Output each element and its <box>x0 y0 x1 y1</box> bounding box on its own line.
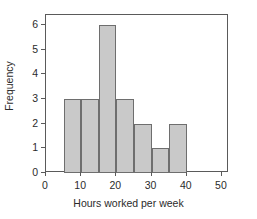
x-tick-label: 0 <box>42 180 48 191</box>
x-tick-mark <box>80 172 81 176</box>
y-tick-label: 3 <box>20 93 38 104</box>
bar <box>134 124 152 173</box>
y-tick-label: 1 <box>20 142 38 153</box>
plot-area <box>45 14 228 172</box>
x-tick-label: 40 <box>180 180 192 191</box>
x-tick-mark <box>151 172 152 176</box>
x-tick-mark <box>45 172 46 176</box>
y-tick-label: 6 <box>20 19 38 30</box>
bar <box>152 148 170 173</box>
y-tick-label: 0 <box>20 167 38 178</box>
bar <box>81 99 99 173</box>
x-tick-label: 20 <box>110 180 122 191</box>
y-axis-title: Frequency <box>0 0 18 172</box>
bar <box>99 25 117 173</box>
bar <box>116 99 134 173</box>
x-tick-label: 10 <box>74 180 86 191</box>
y-tick-label: 5 <box>20 43 38 54</box>
x-tick-mark <box>115 172 116 176</box>
y-tick-label: 2 <box>20 117 38 128</box>
x-tick-mark <box>186 172 187 176</box>
y-tick-label: 4 <box>20 68 38 79</box>
bar <box>169 124 187 173</box>
histogram-chart: Frequency 0123456 01020304050 Hours work… <box>0 0 257 219</box>
x-tick-mark <box>221 172 222 176</box>
x-tick-label: 50 <box>215 180 227 191</box>
x-axis-title: Hours worked per week <box>0 197 257 209</box>
x-tick-label: 30 <box>145 180 157 191</box>
bar <box>64 99 82 173</box>
y-axis-tick-labels: 0123456 <box>20 0 38 219</box>
